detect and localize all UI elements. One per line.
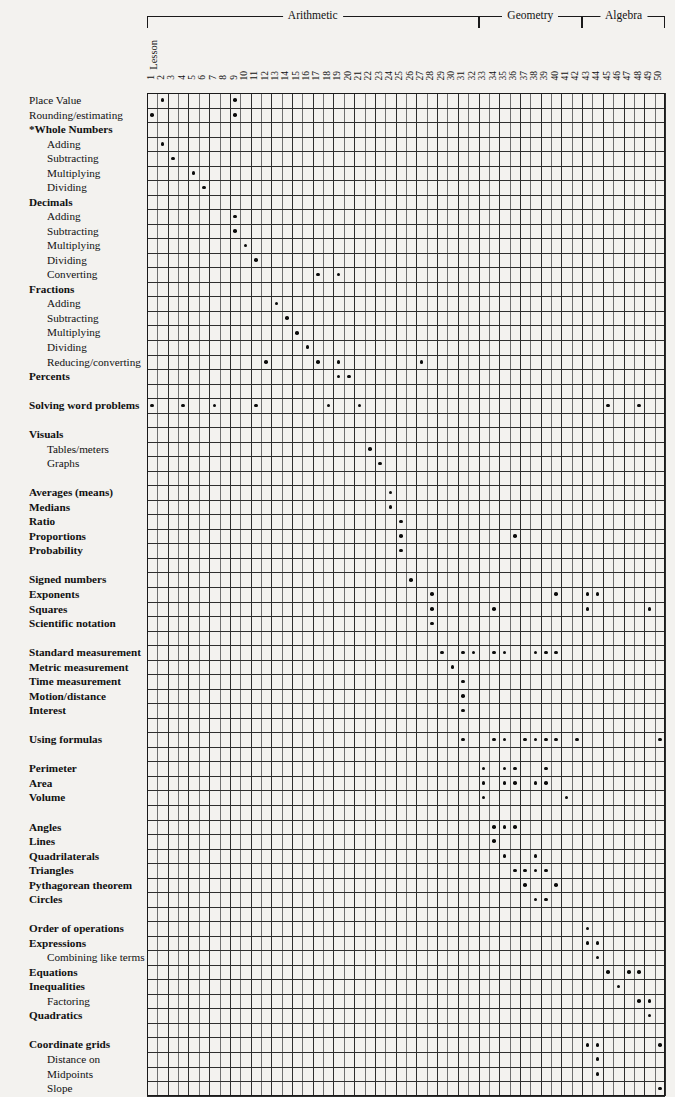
skill-lesson-marker	[596, 956, 600, 960]
skill-lesson-marker	[503, 651, 507, 655]
skill-lesson-marker	[503, 767, 507, 771]
grid-row-line	[147, 543, 665, 544]
grid-row-line	[147, 790, 665, 791]
skill-label-factoring: Factoring	[47, 996, 90, 1007]
skill-label-medians: Medians	[29, 502, 70, 513]
skill-lesson-marker	[430, 622, 434, 626]
skill-label-percents: Percents	[29, 371, 70, 382]
group-bracket-arithmetic: Arithmetic	[147, 16, 479, 33]
skill-lesson-marker	[399, 520, 403, 524]
skill-label-multiplying: Multiplying	[47, 240, 100, 251]
skill-label-dividing: Dividing	[47, 182, 87, 193]
skill-label-inequalities: Inequalities	[29, 981, 85, 992]
skill-lesson-marker	[544, 738, 548, 742]
grid-row-line	[147, 587, 665, 588]
grid-column-line	[551, 93, 552, 1096]
skill-label-multiplying: Multiplying	[47, 327, 100, 338]
skill-lesson-marker	[513, 534, 517, 538]
grid-row-line	[147, 1081, 665, 1082]
grid-row-line	[147, 602, 665, 603]
skill-label-column: Place ValueRounding/estimating*Whole Num…	[0, 0, 143, 931]
skill-label-fractions: Fractions	[29, 284, 74, 295]
skill-label-lines: Lines	[29, 836, 55, 847]
skill-lesson-marker	[264, 360, 268, 364]
skill-lesson-marker	[171, 157, 175, 161]
grid-column-line	[655, 93, 656, 1096]
grid-column-line	[199, 93, 200, 1096]
skill-lesson-marker	[389, 491, 393, 495]
grid-row-line	[147, 907, 665, 908]
grid-column-line	[230, 93, 231, 1096]
skill-lesson-marker	[606, 404, 610, 408]
skill-lesson-marker	[461, 680, 465, 684]
skill-label-interest: Interest	[29, 705, 66, 716]
skill-label-squares: Squares	[29, 604, 67, 615]
skill-lesson-marker	[337, 360, 341, 364]
skill-lesson-marker	[513, 869, 517, 873]
skill-label-decimals: Decimals	[29, 197, 73, 208]
grid-row-line	[147, 500, 665, 501]
skill-lesson-marker	[181, 404, 185, 408]
grid-row-line	[147, 267, 665, 268]
skill-lesson-marker	[482, 767, 486, 771]
skill-lesson-marker	[544, 767, 548, 771]
skill-label-volume: Volume	[29, 792, 65, 803]
skill-label-metric-measurement: Metric measurement	[29, 662, 129, 673]
skill-lesson-marker	[492, 825, 496, 829]
grid-column-line	[406, 93, 407, 1096]
skill-lesson-marker	[399, 549, 403, 553]
grid-column-line	[396, 93, 397, 1096]
skill-label-adding: Adding	[47, 211, 81, 222]
grid-column-line	[365, 93, 366, 1096]
grid-row-line	[147, 180, 665, 181]
skill-lesson-marker	[637, 999, 641, 1003]
skill-label-probability: Probability	[29, 545, 83, 556]
skill-label-proportions: Proportions	[29, 531, 86, 542]
grid-column-line	[168, 93, 169, 1096]
grid-column-line	[447, 93, 448, 1096]
skill-label-exponents: Exponents	[29, 589, 79, 600]
grid-column-line	[302, 93, 303, 1096]
skill-label-solving-word-problems: Solving word problems	[29, 400, 139, 411]
grid-row-line	[147, 805, 665, 806]
skill-label-pythagorean-theorem: Pythagorean theorem	[29, 880, 132, 891]
skill-label-order-of-operations: Order of operations	[29, 923, 124, 934]
grid-column-line	[458, 93, 459, 1096]
skill-lesson-marker	[658, 738, 662, 742]
skill-lesson-marker	[523, 738, 527, 742]
skill-lesson-marker	[575, 738, 579, 742]
skill-lesson-marker	[503, 825, 507, 829]
grid-row-line	[147, 384, 665, 385]
skill-lesson-marker	[596, 592, 600, 596]
skill-label-perimeter: Perimeter	[29, 763, 77, 774]
skill-label-dividing: Dividing	[47, 255, 87, 266]
grid-row-line	[147, 645, 665, 646]
group-bracket-geometry: Geometry	[479, 16, 583, 33]
skill-label-time-measurement: Time measurement	[29, 676, 121, 687]
skill-lesson-marker	[150, 113, 154, 117]
skill-lesson-marker	[295, 331, 299, 335]
skill-label-equations: Equations	[29, 967, 78, 978]
skill-label-subtracting: Subtracting	[47, 313, 99, 324]
skill-lesson-marker	[440, 651, 444, 655]
grid-column-line	[541, 93, 542, 1096]
grid-row-line	[147, 108, 665, 109]
grid-row-line	[147, 950, 665, 951]
grid-row-line	[147, 689, 665, 690]
skill-lesson-marker	[244, 244, 248, 248]
grid-column-line	[489, 93, 490, 1096]
grid-row-line	[147, 820, 665, 821]
grid-row-line	[147, 776, 665, 777]
skill-lesson-marker	[658, 1043, 662, 1047]
skill-lesson-marker	[586, 941, 590, 945]
group-bracket-algebra: Algebra	[582, 16, 665, 33]
grid-row-line	[147, 355, 665, 356]
grid-row-line	[147, 427, 665, 428]
grid-row-line	[147, 703, 665, 704]
skill-lesson-marker	[503, 781, 507, 785]
skill-label-using-formulas: Using formulas	[29, 734, 102, 745]
grid-row-line	[147, 369, 665, 370]
grid-column-line	[220, 93, 221, 1096]
grid-row-line	[147, 137, 665, 138]
skill-lesson-marker	[461, 709, 465, 713]
